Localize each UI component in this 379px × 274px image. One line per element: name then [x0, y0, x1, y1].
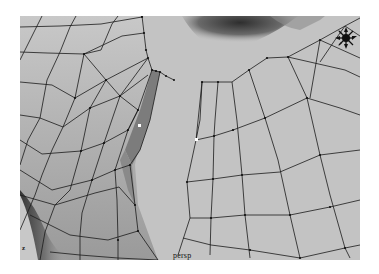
view-axis-indicator: z [22, 244, 25, 252]
mesh-canvas[interactable] [20, 16, 360, 260]
selected-vertex [195, 138, 198, 141]
camera-label: persp [173, 251, 191, 260]
perspective-viewport[interactable]: z persp [20, 16, 360, 260]
selected-vertex [138, 124, 141, 127]
move-manipulator-icon[interactable] [334, 26, 358, 50]
